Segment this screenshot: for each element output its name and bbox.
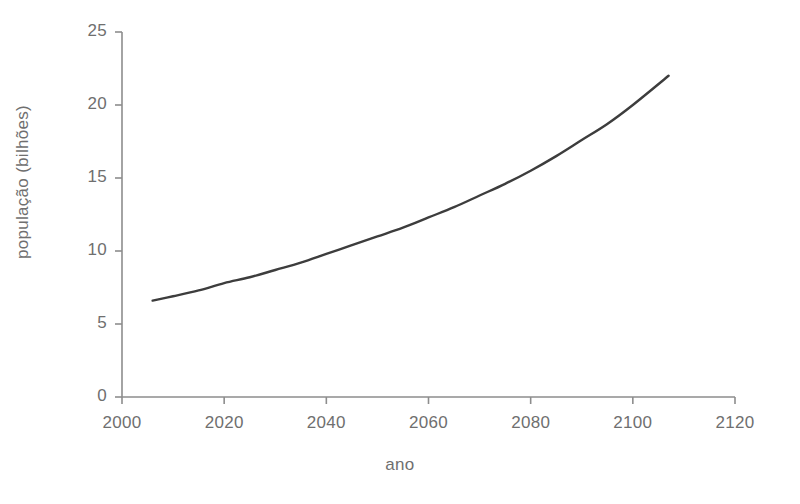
y-axis-title-container: população (bilhões) bbox=[13, 67, 33, 297]
x-axis-tick-label: 2080 bbox=[486, 413, 576, 433]
x-axis-tick-label: 2040 bbox=[281, 413, 371, 433]
data-line-series bbox=[153, 76, 669, 301]
x-axis-tick-label: 2060 bbox=[384, 413, 474, 433]
x-axis-tick-label: 2120 bbox=[690, 413, 780, 433]
y-axis-tick-label: 25 bbox=[57, 21, 107, 41]
data-series-group bbox=[153, 76, 669, 301]
x-axis-tick-label: 2000 bbox=[77, 413, 167, 433]
x-axis-tick-label: 2020 bbox=[179, 413, 269, 433]
x-axis-tick-label: 2100 bbox=[588, 413, 678, 433]
y-axis-tick-label: 10 bbox=[57, 240, 107, 260]
axes-group bbox=[122, 32, 735, 397]
y-axis-tick-label: 0 bbox=[57, 386, 107, 406]
y-axis-tick-label: 5 bbox=[57, 313, 107, 333]
x-axis-title: ano bbox=[0, 455, 800, 475]
y-axis-title: população (bilhões) bbox=[13, 105, 33, 259]
chart-figure: 0510152025 2000202020402060208021002120 … bbox=[0, 0, 800, 504]
y-axis-tick-label: 20 bbox=[57, 94, 107, 114]
y-axis-tick-label: 15 bbox=[57, 167, 107, 187]
